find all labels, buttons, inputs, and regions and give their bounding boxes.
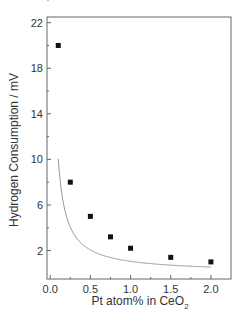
fit-curve <box>58 159 211 267</box>
data-point <box>56 43 61 48</box>
data-point <box>88 214 93 219</box>
y-tick-label: 2 <box>37 245 43 257</box>
data-point <box>168 255 173 260</box>
plot-frame <box>47 17 231 279</box>
y-tick-label: 6 <box>37 199 43 211</box>
y-axis-ticks: 2610141822 <box>31 0 51 257</box>
data-point <box>208 259 213 264</box>
data-point <box>68 180 73 185</box>
x-tick-label: 0.0 <box>43 283 58 295</box>
y-tick-label: 10 <box>31 153 43 165</box>
data-points <box>56 43 214 264</box>
x-tick-label: 2.0 <box>203 283 218 295</box>
data-point <box>128 246 133 251</box>
y-tick-label: 22 <box>31 17 43 29</box>
y-tick-label: 14 <box>31 108 43 120</box>
x-axis-label: Pt atom% in CeO2 <box>91 294 189 311</box>
y-tick-label: 18 <box>31 62 43 74</box>
y-axis-label: Hydrogen Consumption / mV <box>7 73 21 227</box>
data-point <box>108 234 113 239</box>
chart: 2610141822 0.00.51.01.52.0 Hydrogen Cons… <box>0 0 243 325</box>
x-axis-ticks: 0.00.51.01.52.0 <box>43 275 219 295</box>
